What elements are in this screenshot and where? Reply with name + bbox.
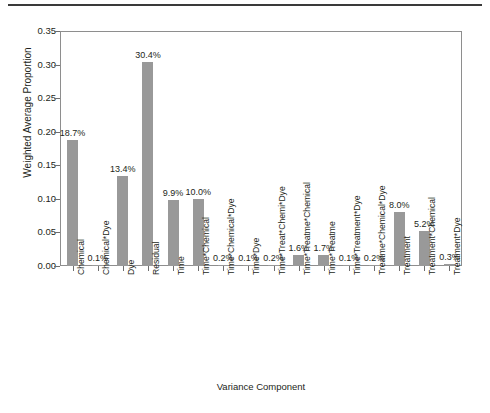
x-category-label: Residual [152, 242, 161, 275]
bar-value-label: 10.0% [176, 187, 220, 197]
x-tick-mark [198, 266, 199, 271]
x-tick-mark [399, 266, 400, 271]
bar-value-label: 5.2% [402, 219, 446, 229]
x-category-label: Time*Treatment*Dye [353, 195, 362, 275]
y-tick-mark [54, 98, 60, 99]
x-tick-mark [223, 266, 224, 271]
y-tick-mark [54, 31, 60, 32]
x-category-label: Time*Chemical*Dye [227, 198, 236, 275]
header-divider [8, 4, 482, 6]
x-category-label: Time*Treatme [328, 221, 337, 275]
x-category-label: Treatment*Dye [453, 218, 462, 275]
y-tick-mark [54, 199, 60, 200]
y-tick-label: 0.00 [0, 261, 56, 271]
x-category-label: Dye [127, 260, 136, 275]
x-category-label: Time*Treatme*Chemical [303, 182, 312, 275]
x-category-label: Treatme*Chemical*Dye [378, 186, 387, 275]
bar-value-label: 30.4% [126, 50, 170, 60]
x-tick-mark [324, 266, 325, 271]
x-tick-mark [123, 266, 124, 271]
x-category-label: Time*Dye [252, 238, 261, 275]
x-tick-mark [173, 266, 174, 271]
x-category-label: Chemical*Dye [102, 221, 111, 275]
bar-value-label: 13.4% [101, 164, 145, 174]
x-category-label: Chemical [77, 239, 86, 275]
x-category-label: Treatment*Chemical [428, 197, 437, 275]
bar-chart-figure: 0.000.050.100.150.200.250.300.35 Weighte… [0, 0, 490, 413]
x-tick-mark [374, 266, 375, 271]
x-tick-mark [424, 266, 425, 271]
x-tick-mark [449, 266, 450, 271]
y-tick-mark [54, 232, 60, 233]
y-tick-label: 0.05 [0, 227, 56, 237]
x-tick-mark [98, 266, 99, 271]
x-category-label: Time*Treat*Chemi*Dye [278, 186, 287, 275]
y-tick-mark [54, 266, 60, 267]
bar-value-label: 18.7% [51, 128, 95, 138]
x-tick-mark [349, 266, 350, 271]
y-tick-mark [54, 165, 60, 166]
x-category-label: Time*Chemical [202, 217, 211, 275]
x-tick-mark [248, 266, 249, 271]
y-tick-mark [54, 65, 60, 66]
x-tick-mark [73, 266, 74, 271]
x-category-label: Treatment [403, 236, 412, 275]
x-tick-mark [148, 266, 149, 271]
x-tick-mark [274, 266, 275, 271]
x-axis-title: Variance Component [60, 381, 462, 392]
y-axis-title: Weighted Average Proportion [22, 13, 33, 213]
x-tick-mark [299, 266, 300, 271]
x-category-label: Time [177, 256, 186, 275]
